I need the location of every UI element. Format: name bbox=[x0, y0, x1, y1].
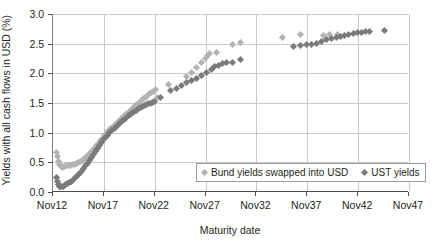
legend-marker-ust-icon bbox=[361, 169, 368, 176]
y-axis-title: Yields with all cash flows in USD (%) bbox=[0, 0, 12, 245]
legend-item-bund: Bund yields swapped into USD bbox=[202, 167, 348, 178]
x-tick-mark bbox=[306, 192, 307, 196]
y-tick-label: 1.0 bbox=[16, 128, 44, 139]
data-point bbox=[297, 31, 304, 38]
chart-legend: Bund yields swapped into USD UST yields bbox=[196, 163, 426, 182]
x-tick-label: Nov27 bbox=[182, 200, 228, 211]
data-point bbox=[228, 59, 235, 66]
data-point bbox=[237, 39, 244, 46]
y-tick-mark bbox=[48, 162, 52, 163]
data-point bbox=[381, 27, 388, 34]
y-axis-title-text: Yields with all cash flows in USD (%) bbox=[1, 26, 12, 186]
y-tick-label: 0.0 bbox=[16, 187, 44, 198]
y-tick-mark bbox=[48, 14, 52, 15]
x-tick-label: Nov12 bbox=[29, 200, 75, 211]
x-tick-label: Nov47 bbox=[385, 200, 431, 211]
x-tick-mark bbox=[103, 192, 104, 196]
data-point bbox=[228, 41, 235, 48]
legend-marker-bund-icon bbox=[201, 169, 208, 176]
y-tick-mark bbox=[48, 103, 52, 104]
gridline-horizontal bbox=[53, 14, 408, 15]
y-tick-mark bbox=[48, 133, 52, 134]
x-tick-label: Nov17 bbox=[80, 200, 126, 211]
x-tick-label: Nov42 bbox=[334, 200, 380, 211]
y-tick-mark bbox=[48, 44, 52, 45]
y-tick-label: 0.5 bbox=[16, 157, 44, 168]
x-tick-mark bbox=[205, 192, 206, 196]
y-tick-label: 2.0 bbox=[16, 68, 44, 79]
data-point bbox=[213, 49, 220, 56]
gridline-horizontal bbox=[53, 73, 408, 74]
x-tick-mark bbox=[154, 192, 155, 196]
x-tick-mark bbox=[408, 192, 409, 196]
legend-label-ust: UST yields bbox=[371, 167, 419, 178]
x-tick-label: Nov32 bbox=[232, 200, 278, 211]
x-tick-label: Nov37 bbox=[283, 200, 329, 211]
y-tick-mark bbox=[48, 73, 52, 74]
x-tick-mark bbox=[357, 192, 358, 196]
data-point bbox=[279, 34, 286, 41]
x-axis-title: Maturity date bbox=[52, 225, 408, 236]
x-tick-mark bbox=[255, 192, 256, 196]
legend-label-bund: Bund yields swapped into USD bbox=[211, 167, 348, 178]
x-tick-label: Nov22 bbox=[131, 200, 177, 211]
gridline-horizontal bbox=[53, 103, 408, 104]
data-point bbox=[165, 80, 172, 87]
yield-curve-scatter-chart: Yields with all cash flows in USD (%) 0.… bbox=[0, 0, 443, 245]
data-point bbox=[193, 64, 200, 71]
x-axis-title-text: Maturity date bbox=[200, 224, 261, 236]
legend-item-ust: UST yields bbox=[362, 167, 419, 178]
y-tick-label: 1.5 bbox=[16, 98, 44, 109]
data-point bbox=[237, 56, 244, 63]
y-tick-label: 2.5 bbox=[16, 39, 44, 50]
x-tick-mark bbox=[52, 192, 53, 196]
y-tick-label: 3.0 bbox=[16, 9, 44, 20]
